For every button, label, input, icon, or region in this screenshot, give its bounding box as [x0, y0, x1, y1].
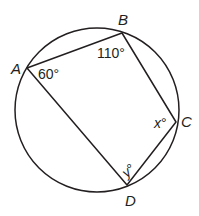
- angle-label-b: 110°: [97, 45, 125, 61]
- vertex-label-a: A: [10, 60, 21, 77]
- cyclic-quadrilateral-diagram: A B C D 60° 110° x° y°: [0, 0, 199, 216]
- vertex-label-b: B: [118, 11, 128, 28]
- vertex-label-c: C: [181, 113, 192, 130]
- vertex-label-d: D: [125, 192, 136, 209]
- angle-label-a: 60°: [38, 66, 59, 82]
- angle-label-c: x°: [153, 115, 167, 131]
